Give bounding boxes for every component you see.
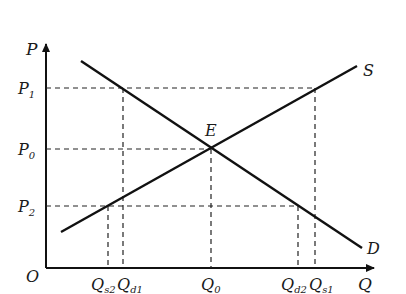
quantity-label-qs1: Qs1 [309, 275, 334, 294]
supply-curve [61, 66, 357, 232]
quantity-label-qd2: Qd2 [281, 275, 307, 294]
price-label-p2: P2 [17, 197, 35, 218]
supply-demand-diagram: P Q O S D E P1 P0 P2 Qs2 Qd1 Q0 Qd2 Qs1 [0, 0, 406, 294]
equilibrium-label: E [204, 121, 217, 140]
price-label-p0: P0 [17, 140, 36, 161]
quantity-label-q0: Q0 [201, 275, 221, 294]
price-label-p1: P1 [17, 79, 35, 100]
guide-lines [46, 88, 315, 268]
origin-label: O [26, 267, 39, 286]
y-axis-label: P [25, 39, 38, 59]
quantity-label-qs2: Qs2 [91, 275, 116, 294]
demand-label: D [366, 239, 380, 258]
quantity-label-qd1: Qd1 [117, 275, 143, 294]
supply-label: S [363, 61, 374, 80]
x-axis-label: Q [358, 274, 372, 294]
